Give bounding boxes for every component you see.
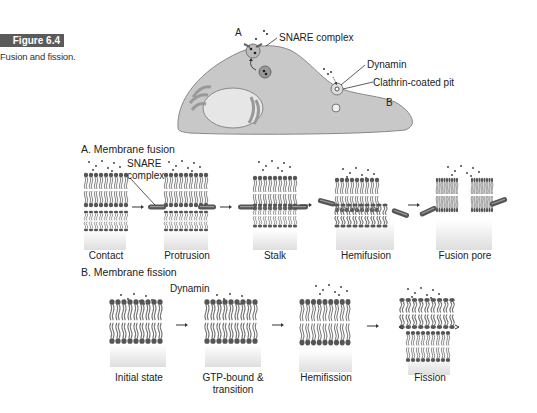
stage-protrusion: Protrusion — [159, 250, 215, 261]
site-a-label: A — [235, 27, 242, 38]
stage-fusion-pore: Fusion pore — [435, 250, 495, 261]
diagram-graphics — [0, 0, 537, 413]
snare-label-line2: complex — [127, 170, 164, 181]
stage-hemifusion: Hemifusion — [336, 250, 396, 261]
stage-stalk: Stalk — [255, 250, 295, 261]
stage-contact: Contact — [84, 250, 128, 261]
stage-initial-state: Initial state — [106, 372, 172, 383]
snare-complex-label: SNARE complex — [279, 32, 353, 43]
dynamin-label: Dynamin — [367, 59, 406, 70]
stage-gtp-bound-line1: GTP-bound & — [198, 372, 268, 383]
fission-panels — [109, 284, 459, 375]
clathrin-pit-label: Clathrin-coated pit — [373, 77, 454, 88]
fission-dynamin-label: Dynamin — [170, 283, 209, 294]
fission-section-title: B. Membrane fission — [81, 266, 177, 278]
fusion-section-title: A. Membrane fusion — [81, 143, 175, 155]
stage-fission: Fission — [405, 372, 455, 383]
stage-gtp-bound-line2: transition — [198, 384, 268, 395]
snare-label-line1: SNARE — [127, 158, 161, 169]
stage-hemifission: Hemifission — [295, 372, 357, 383]
site-b-label: B — [386, 97, 393, 108]
